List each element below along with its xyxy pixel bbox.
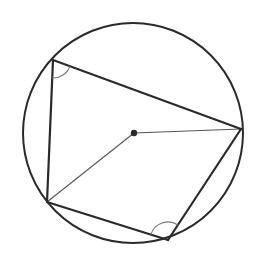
background bbox=[0, 0, 266, 258]
center-point bbox=[131, 130, 137, 136]
cyclic-quadrilateral-diagram bbox=[0, 0, 266, 258]
